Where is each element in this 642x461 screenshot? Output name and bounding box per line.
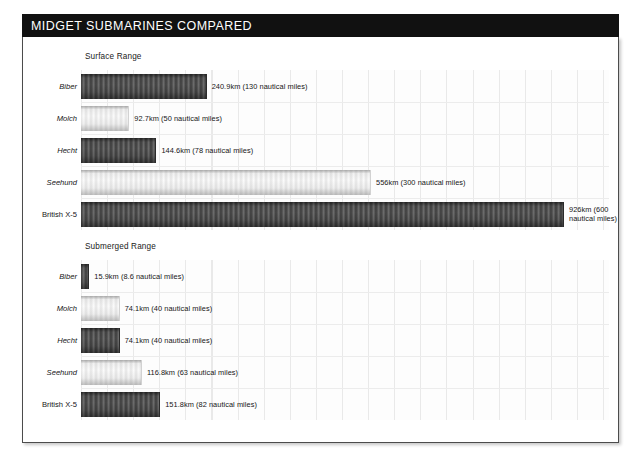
section-submerged-range: Submerged Range Biber15.9km (8.6 nautica… bbox=[33, 260, 609, 420]
bar-value-label: 240.9km (130 nautical miles) bbox=[212, 74, 308, 99]
bar-value-label: 74.1km (40 nautical miles) bbox=[125, 296, 213, 321]
chart-row: British X-5926km (600 nautical miles) bbox=[33, 198, 609, 230]
row-label-molch: Molch bbox=[33, 292, 77, 324]
bar-submerged-biber bbox=[81, 264, 89, 289]
bar-surface-molch bbox=[81, 106, 129, 131]
bar-value-label: 92.7km (50 nautical miles) bbox=[134, 106, 222, 131]
plot-area: Surface Range Biber240.9km (130 nautical… bbox=[33, 45, 609, 433]
chart-row: Seehund116.8km (63 nautical miles) bbox=[33, 356, 609, 388]
row-label-british-x-5: British X-5 bbox=[33, 388, 77, 420]
bar-value-label: 151.8km (82 nautical miles) bbox=[165, 392, 257, 417]
bar-submerged-seehund bbox=[81, 360, 142, 385]
bar-value-label: 144.6km (78 nautical miles) bbox=[161, 138, 253, 163]
chart-row: Hecht74.1km (40 nautical miles) bbox=[33, 324, 609, 356]
section-surface-range: Surface Range Biber240.9km (130 nautical… bbox=[33, 70, 609, 230]
chart-row: Seehund556km (300 nautical miles) bbox=[33, 166, 609, 198]
chart-row: Molch92.7km (50 nautical miles) bbox=[33, 102, 609, 134]
bar-value-label: 116.8km (63 nautical miles) bbox=[147, 360, 238, 385]
bar-value-label: 556km (300 nautical miles) bbox=[376, 170, 466, 195]
bar-value-label: 926km (600 nautical miles) bbox=[569, 202, 621, 227]
bar-surface-biber bbox=[81, 74, 207, 99]
chart-row: Hecht144.6km (78 nautical miles) bbox=[33, 134, 609, 166]
bar-surface-british-x-5 bbox=[81, 202, 564, 227]
bar-value-label: 74.1km (40 nautical miles) bbox=[125, 328, 213, 353]
row-label-hecht: Hecht bbox=[33, 134, 77, 166]
page-title: MIDGET SUBMARINES COMPARED bbox=[22, 19, 252, 33]
chart-row: Molch74.1km (40 nautical miles) bbox=[33, 292, 609, 324]
row-label-seehund: Seehund bbox=[33, 166, 77, 198]
bar-submerged-molch bbox=[81, 296, 120, 321]
row-label-hecht: Hecht bbox=[33, 324, 77, 356]
chart-row: Biber15.9km (8.6 nautical miles) bbox=[33, 260, 609, 292]
chart-panel: Surface Range Biber240.9km (130 nautical… bbox=[22, 37, 619, 443]
section-heading-submerged: Submerged Range bbox=[85, 242, 156, 251]
row-label-molch: Molch bbox=[33, 102, 77, 134]
row-label-biber: Biber bbox=[33, 70, 77, 102]
bar-surface-hecht bbox=[81, 138, 156, 163]
chart-row: British X-5151.8km (82 nautical miles) bbox=[33, 388, 609, 420]
chart-row: Biber240.9km (130 nautical miles) bbox=[33, 70, 609, 102]
bar-value-label: 15.9km (8.6 nautical miles) bbox=[94, 264, 184, 289]
row-label-seehund: Seehund bbox=[33, 356, 77, 388]
chart-title-bar: MIDGET SUBMARINES COMPARED bbox=[22, 14, 619, 37]
chart-figure: MIDGET SUBMARINES COMPARED Surface Range… bbox=[22, 14, 619, 443]
bar-submerged-british-x-5 bbox=[81, 392, 160, 417]
section-heading-surface: Surface Range bbox=[85, 52, 142, 61]
row-label-biber: Biber bbox=[33, 260, 77, 292]
bar-surface-seehund bbox=[81, 170, 371, 195]
bar-submerged-hecht bbox=[81, 328, 120, 353]
row-label-british-x-5: British X-5 bbox=[33, 198, 77, 230]
